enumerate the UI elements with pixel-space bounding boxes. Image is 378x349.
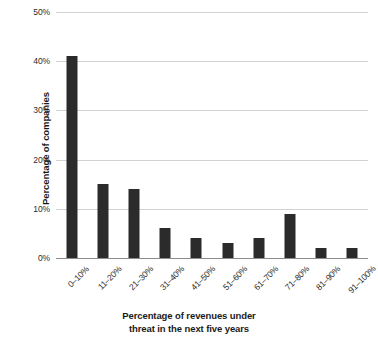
bar[interactable] — [284, 214, 295, 258]
bar-slot — [181, 12, 212, 258]
y-axis-tick-label: 10% — [33, 204, 50, 214]
bars-group — [56, 12, 368, 258]
y-axis-tick-label: 30% — [33, 105, 50, 115]
x-axis-title: Percentage of revenues under threat in t… — [0, 310, 378, 335]
x-axis-tick: 11–20% — [87, 260, 118, 278]
x-axis-tick-label: 91–100% — [346, 264, 377, 295]
bar-slot — [212, 12, 243, 258]
x-axis-tick: 21–30% — [118, 260, 149, 278]
x-axis-tick: 51–60% — [212, 260, 243, 278]
bar[interactable] — [160, 228, 171, 258]
bar[interactable] — [316, 248, 327, 258]
bar-chart: Percentage of companies 0%10%20%30%40%50… — [0, 0, 378, 349]
x-axis-tick: 91–100% — [337, 260, 368, 278]
bar-slot — [118, 12, 149, 258]
x-axis-tick: 61–70% — [243, 260, 274, 278]
y-axis-title: Percentage of companies — [40, 49, 51, 249]
bar[interactable] — [253, 238, 264, 258]
bar[interactable] — [222, 243, 233, 258]
x-axis-tick: 81–90% — [306, 260, 337, 278]
bar[interactable] — [128, 189, 139, 258]
x-axis-tick: 31–40% — [150, 260, 181, 278]
x-axis-title-line-2: threat in the next five years — [0, 323, 378, 336]
bar[interactable] — [191, 238, 202, 258]
bar[interactable] — [97, 184, 108, 258]
x-axis-tick: 41–50% — [181, 260, 212, 278]
bar-slot — [56, 12, 87, 258]
gridline-0: 0% — [56, 258, 368, 259]
bar-slot — [87, 12, 118, 258]
plot-area: 0%10%20%30%40%50% — [56, 12, 368, 258]
bar-slot — [274, 12, 305, 258]
y-axis-tick-label: 40% — [33, 56, 50, 66]
x-axis-tick-labels: 0–10%11–20%21–30%31–40%41–50%51–60%61–70… — [56, 260, 368, 304]
bar-slot — [337, 12, 368, 258]
x-axis-tick: 0–10% — [56, 260, 87, 278]
bar-slot — [243, 12, 274, 258]
y-axis-tick-label: 20% — [33, 155, 50, 165]
x-axis-tick: 71–80% — [274, 260, 305, 278]
bar-slot — [150, 12, 181, 258]
y-axis-tick-label: 50% — [33, 7, 50, 17]
bar[interactable] — [66, 56, 77, 258]
bar[interactable] — [347, 248, 358, 258]
bar-slot — [306, 12, 337, 258]
x-axis-title-line-1: Percentage of revenues under — [0, 310, 378, 323]
y-axis-tick-label: 0% — [38, 253, 50, 263]
